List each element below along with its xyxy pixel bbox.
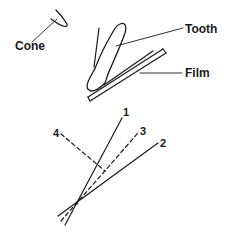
film-label: Film (185, 66, 210, 80)
line-3-label: 3 (140, 125, 146, 137)
tooth-shape (87, 23, 153, 91)
line-3 (61, 133, 138, 221)
line-1 (65, 118, 122, 225)
tooth-label: Tooth (185, 22, 217, 36)
line-2 (58, 143, 158, 216)
top-panel: Cone Tooth Film (15, 10, 217, 101)
tooth-crown-line (104, 51, 153, 85)
diagram-canvas: Cone Tooth Film 1 2 3 4 (0, 0, 227, 236)
line-2-label: 2 (160, 137, 166, 149)
line-4 (61, 134, 105, 171)
line-4-label: 4 (53, 127, 60, 139)
line-1-label: 1 (123, 106, 129, 118)
cone-icon (51, 10, 67, 26)
cone-label: Cone (15, 39, 45, 53)
vertex-point (76, 202, 79, 205)
bottom-panel: 1 2 3 4 (53, 106, 166, 225)
